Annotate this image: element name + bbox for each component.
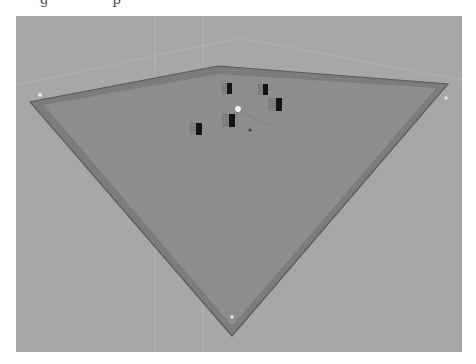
origin-marker-icon[interactable] — [249, 129, 252, 132]
panel-object-2[interactable] — [227, 83, 232, 94]
panel-object-1[interactable] — [196, 123, 202, 135]
panel-shadow — [268, 98, 276, 111]
scene-canvas[interactable] — [16, 16, 462, 352]
panel-object-3[interactable] — [263, 84, 268, 95]
corner-handle-icon[interactable] — [230, 315, 234, 319]
panel-shadow — [222, 114, 229, 127]
panel-shadow — [190, 122, 196, 134]
light-source-icon[interactable] — [235, 106, 241, 112]
panel-shadow — [258, 84, 263, 95]
scene-viewport[interactable] — [16, 16, 462, 352]
corner-handle-icon[interactable] — [38, 93, 42, 97]
panel-shadow — [222, 83, 227, 94]
corner-handle-icon[interactable] — [444, 96, 448, 100]
cropped-caption-text: g p — [40, 0, 151, 7]
panel-object-4[interactable] — [276, 98, 282, 111]
panel-object-5[interactable] — [229, 114, 235, 127]
